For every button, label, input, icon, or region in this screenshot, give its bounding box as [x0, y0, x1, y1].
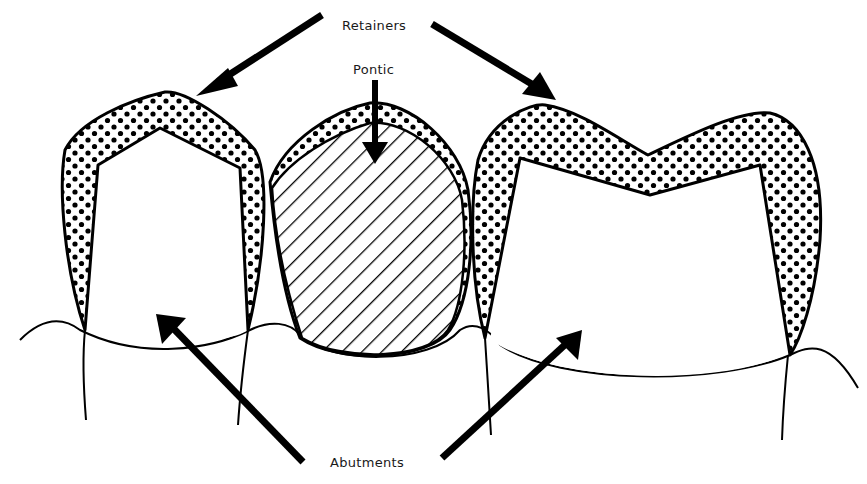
pontic-label: Pontic	[353, 62, 394, 77]
retainers-label: Retainers	[342, 18, 406, 33]
bridge-diagram: Retainers Pontic Abutments	[0, 0, 867, 484]
diagram-svg	[0, 0, 867, 484]
pontic	[270, 103, 471, 356]
abutments-label: Abutments	[330, 455, 404, 470]
right-abutment	[485, 160, 788, 440]
